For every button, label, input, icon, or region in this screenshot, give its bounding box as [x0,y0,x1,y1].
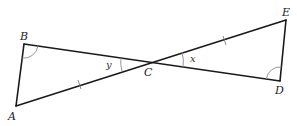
point-label-E: E [281,6,290,19]
angle-arc-D [266,67,281,79]
angle-arc-B [22,46,38,58]
point-label-A: A [7,110,16,123]
point-label-C: C [144,66,153,79]
segment-AE [16,20,286,106]
segment-AB [16,44,24,106]
point-label-B: B [19,30,28,43]
tick-mark-AC [78,80,81,89]
point-label-D: D [274,84,284,97]
segment-DE [280,20,286,81]
angle-arc-x [182,52,183,67]
angle-arc-y [121,58,122,71]
geometry-diagram: A B C D E y x [0,0,297,126]
angle-label-x: x [190,53,196,64]
angle-label-y: y [105,59,112,70]
